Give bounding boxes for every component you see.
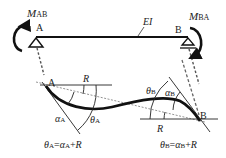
dashed-line-a bbox=[37, 48, 44, 75]
equation-b: θB=αB+R bbox=[160, 139, 197, 150]
equation-a: θA=αA+R bbox=[44, 139, 82, 150]
support-a-pin bbox=[29, 38, 43, 47]
support-b-label: B bbox=[175, 24, 182, 35]
moment-b-label: MBA bbox=[188, 10, 210, 22]
slope-deflection-diagram: MAB A EI B MBA A R αA θA θB αB B R θA=αA… bbox=[0, 0, 226, 158]
arc-r-b bbox=[164, 112, 165, 119]
support-b-roller bbox=[180, 38, 196, 48]
alpha-b-label: αB bbox=[165, 87, 175, 98]
ei-leader bbox=[138, 27, 144, 36]
moment-a-label: MAB bbox=[26, 7, 47, 19]
support-a-label: A bbox=[36, 22, 44, 33]
alpha-a-label: αA bbox=[55, 113, 65, 124]
chord-rotation-a-label: R bbox=[82, 73, 89, 84]
theta-b-label: θB bbox=[146, 85, 156, 96]
node-a-label: A bbox=[48, 77, 56, 88]
dashed-line-b-lower bbox=[182, 60, 199, 115]
moment-arrow-a-icon bbox=[14, 26, 24, 51]
chord-rotation-b-label: R bbox=[156, 123, 163, 134]
theta-a-label: θA bbox=[90, 114, 100, 125]
stiffness-label: EI bbox=[142, 16, 153, 27]
arc-r-a bbox=[83, 85, 84, 94]
node-b-label: B bbox=[200, 110, 207, 121]
arc-alpha-a bbox=[68, 92, 74, 104]
